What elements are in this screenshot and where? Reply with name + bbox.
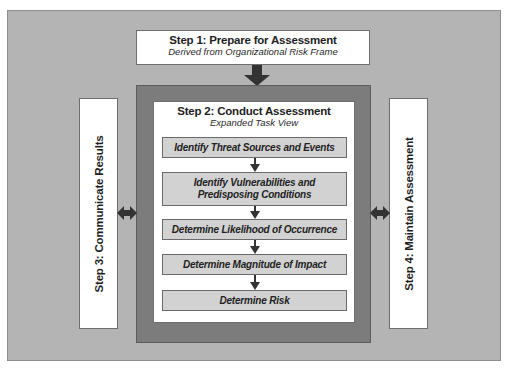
- down-arrow-icon: [250, 158, 260, 172]
- down-arrow-icon: [250, 206, 260, 219]
- step4-box: Step 4: Maintain Assessment: [389, 98, 428, 329]
- step2-subtitle: Expanded Task View: [153, 117, 355, 128]
- task-label: Determine Magnitude of Impact: [183, 259, 326, 271]
- task-label: Identify Threat Sources and Events: [174, 142, 334, 154]
- double-arrow-icon: [370, 205, 390, 221]
- task-label: Determine Risk: [219, 295, 289, 307]
- double-arrow-icon: [117, 205, 137, 221]
- step1-box: Step 1: Prepare for Assessment Derived f…: [136, 30, 370, 65]
- step4-title: Step 4: Maintain Assessment: [403, 137, 415, 290]
- down-arrow-icon: [250, 240, 260, 254]
- step1-subtitle: Derived from Organizational Risk Frame: [137, 46, 369, 57]
- task-determine-risk: Determine Risk: [162, 290, 347, 311]
- down-arrow-icon: [250, 275, 260, 290]
- task-identify-threats: Identify Threat Sources and Events: [162, 137, 347, 158]
- step3-box: Step 3: Communicate Results: [79, 98, 118, 329]
- step2-header: Step 2: Conduct Assessment Expanded Task…: [153, 105, 355, 128]
- task-identify-vulnerabilities: Identify Vulnerabilities and Predisposin…: [162, 172, 347, 206]
- down-arrow-icon: [244, 65, 270, 86]
- task-label: Identify Vulnerabilities and Predisposin…: [177, 177, 332, 201]
- step3-title: Step 3: Communicate Results: [93, 135, 105, 292]
- step1-title: Step 1: Prepare for Assessment: [137, 34, 369, 46]
- task-determine-likelihood: Determine Likelihood of Occurrence: [162, 219, 347, 240]
- step2-title: Step 2: Conduct Assessment: [153, 105, 355, 117]
- task-label: Determine Likelihood of Occurrence: [172, 224, 337, 236]
- task-determine-impact: Determine Magnitude of Impact: [162, 254, 347, 275]
